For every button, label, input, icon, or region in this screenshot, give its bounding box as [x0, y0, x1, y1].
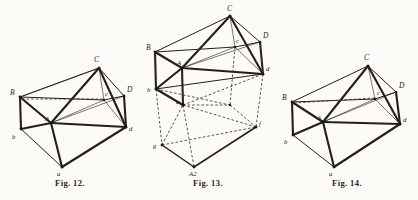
- fig-13-label-A: A: [176, 59, 182, 66]
- fig-12-label-a: a: [57, 170, 61, 177]
- figure-fig-14: C B D c d b A a Fig. 14.: [276, 0, 418, 200]
- fig-14-label-b: b: [284, 138, 288, 145]
- fig-12-drawing: C B D c d b A a: [0, 0, 140, 180]
- fig-14-vertex-dots: [291, 65, 402, 169]
- figure-fig-13: C D B c d b A a f g A2 Fig. 13.: [138, 0, 278, 200]
- fig-12-label-D: D: [126, 85, 133, 94]
- fig-13-lower-base: [162, 127, 256, 167]
- fig-13-label-b: b: [147, 86, 151, 93]
- fig-13-caption: Fig. 13.: [138, 178, 278, 188]
- fig-14-label-a: a: [329, 170, 333, 177]
- fig-13-label-c: c: [236, 37, 239, 44]
- fig-12-label-A: A: [44, 115, 50, 122]
- fig-14-caption: Fig. 14.: [276, 178, 418, 188]
- fig-14-label-B: B: [282, 93, 287, 102]
- fig-13-upper-edges: [155, 16, 263, 89]
- fig-13-label-g: g: [153, 142, 157, 149]
- fig-12-label-C: C: [94, 55, 100, 64]
- fig-12-caption: Fig. 12.: [0, 178, 140, 188]
- fig-13-drawing: C D B c d b A a f g A2: [138, 0, 278, 180]
- fig-14-label-C: C: [364, 53, 370, 62]
- fig-14-drawing: C B D c d b A a: [276, 0, 418, 180]
- fig-13-label-f: f: [259, 120, 262, 127]
- fig-13-label-C: C: [227, 4, 233, 13]
- fig-14-label-D: D: [398, 81, 405, 90]
- fig-14-label-A: A: [316, 114, 322, 121]
- figure-fig-12: C B D c d b A a Fig. 12.: [0, 0, 140, 200]
- fig-12-projection-thin: [21, 129, 62, 167]
- fig-12-label-d: d: [129, 125, 133, 132]
- fig-12-label-b: b: [12, 133, 16, 140]
- fig-13-label-D: D: [262, 31, 269, 40]
- fig-14-projection-base: [323, 122, 400, 167]
- fig-12-top-face: [20, 68, 124, 100]
- fig-13-label-A2: A2: [188, 170, 197, 177]
- fig-13-label-B: B: [146, 43, 151, 52]
- fig-14-label-c: c: [377, 89, 380, 96]
- fig-12-label-c: c: [105, 90, 108, 97]
- fig-12-projection-base: [51, 123, 126, 167]
- fig-13-label-a: a: [176, 98, 180, 105]
- fig-13-upper-top-face: [155, 16, 260, 52]
- fig-13-label-d: d: [266, 65, 270, 72]
- fig-12-left-face: [20, 97, 51, 129]
- fig-12-label-B: B: [10, 88, 15, 97]
- fig-14-label-d: d: [403, 116, 407, 123]
- figure-plate: C B D c d b A a Fig. 12.: [0, 0, 418, 200]
